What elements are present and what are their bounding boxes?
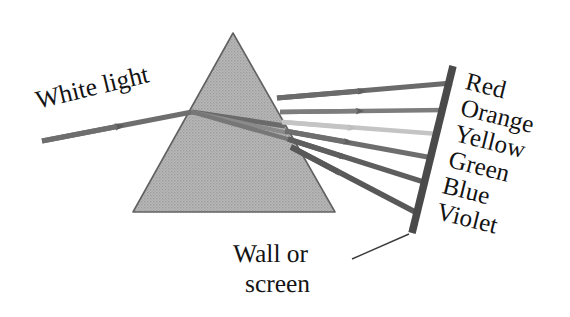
ray-red-arrow [277, 91, 362, 98]
ray-yellow-arrow [282, 122, 352, 128]
wall-or-screen-label: Wall or screen [231, 239, 310, 299]
incident-ray-arrow [42, 126, 120, 141]
wall-label-line1: Wall or [233, 239, 308, 268]
screen-leader-line [352, 234, 409, 259]
prism-dispersion-figure: White light Red Orange Yellow Green Blue… [0, 0, 570, 317]
ray-orange-arrow [280, 111, 360, 112]
wall-label-line2: screen [231, 269, 310, 299]
